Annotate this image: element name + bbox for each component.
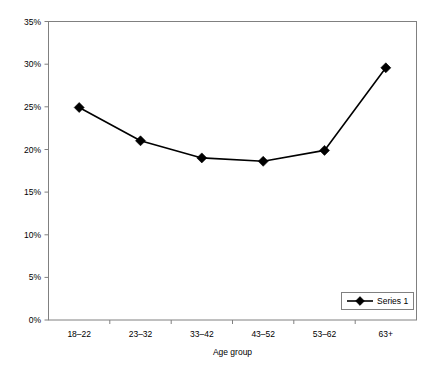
x-axis-label-1: 18–22 [67, 329, 91, 339]
x-axis-labels: 18–22 23–32 33–42 43–52 53–62 63+ [67, 329, 393, 339]
x-axis-label-4: 43–52 [251, 329, 275, 339]
plot-frame [49, 22, 417, 321]
y-axis-label-5: 5% [29, 272, 42, 282]
y-axis-ticks [45, 22, 49, 321]
y-axis-label-20: 20% [24, 145, 41, 155]
x-axis-label-2: 23–32 [129, 329, 153, 339]
data-point-2 [136, 136, 146, 146]
x-axis-ticks [110, 320, 355, 324]
data-point-4 [258, 156, 268, 166]
x-axis-label-5: 53–62 [313, 329, 337, 339]
plot-area-border [49, 22, 417, 321]
legend-series-1-label: Series 1 [377, 296, 408, 306]
chart-canvas: 35% 30% 25% 20% 15% 10% 5% 0% 18–22 23–3… [0, 0, 435, 370]
x-axis-label-3: 33–42 [190, 329, 214, 339]
x-axis-title: Age group [213, 347, 252, 357]
series-1-line [79, 68, 386, 162]
x-axis-label-6: 63+ [379, 329, 393, 339]
y-axis-label-10: 10% [24, 230, 41, 240]
y-axis-labels: 35% 30% 25% 20% 15% 10% 5% 0% [24, 17, 41, 326]
legend[interactable]: Series 1 [342, 293, 414, 310]
y-axis-label-25: 25% [24, 102, 41, 112]
series-1-markers [74, 63, 391, 167]
y-axis-label-15: 15% [24, 187, 41, 197]
y-axis-label-0: 0% [29, 315, 42, 325]
y-axis-label-30: 30% [24, 59, 41, 69]
data-point-1 [74, 103, 84, 113]
y-axis-label-35: 35% [24, 17, 41, 27]
line-chart: 35% 30% 25% 20% 15% 10% 5% 0% 18–22 23–3… [0, 0, 435, 370]
data-point-3 [197, 153, 207, 163]
